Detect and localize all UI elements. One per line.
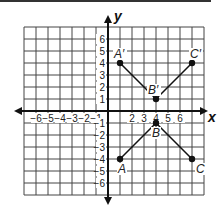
point-label: C — [196, 162, 205, 176]
x-tick-label: 6 — [177, 113, 183, 124]
y-axis-label: y — [113, 8, 123, 24]
y-tick-label: 1 — [99, 94, 105, 105]
point-label: A′ — [113, 47, 125, 61]
point-label: C′ — [190, 47, 202, 61]
y-tick-label: −6 — [94, 178, 106, 189]
x-tick-label: 3 — [141, 113, 147, 124]
point-label: A — [117, 162, 126, 176]
x-tick-label: 5 — [165, 113, 171, 124]
x-tick-label: 2 — [129, 113, 135, 124]
point-label: B′ — [148, 83, 159, 97]
x-tick-label: −4 — [54, 113, 66, 124]
point-label: B — [152, 126, 160, 140]
x-tick-label: −5 — [42, 113, 54, 124]
y-tick-label: 4 — [99, 58, 105, 69]
y-axis-up-arrow-icon — [104, 15, 112, 23]
x-axis-left-arrow-icon — [14, 107, 22, 115]
y-tick-label: 3 — [99, 70, 105, 81]
coordinate-plane: xy −6−5−4−3−2−123456654321−1−2−3−4−5−6 A… — [0, 0, 221, 213]
point-C — [189, 156, 195, 162]
y-tick-label: −4 — [94, 154, 106, 165]
axes: xy — [14, 8, 217, 205]
y-tick-label: −3 — [94, 142, 106, 153]
y-tick-label: −2 — [94, 130, 106, 141]
x-tick-label: −6 — [30, 113, 42, 124]
y-tick-label: 6 — [99, 34, 105, 45]
x-axis-label: x — [207, 109, 217, 125]
x-tick-label: −3 — [66, 113, 78, 124]
y-axis-down-arrow-icon — [104, 197, 112, 205]
y-tick-label: −1 — [94, 118, 106, 129]
y-tick-label: 2 — [99, 82, 105, 93]
x-tick-label: −2 — [78, 113, 90, 124]
y-tick-label: 5 — [99, 46, 105, 57]
y-tick-label: −5 — [94, 166, 106, 177]
